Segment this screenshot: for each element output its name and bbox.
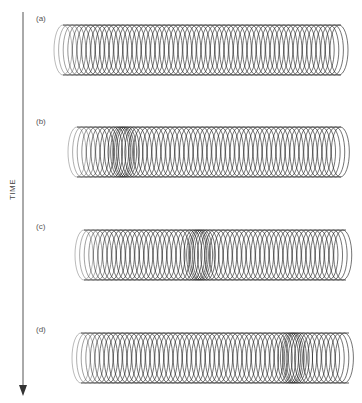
spring-d — [72, 333, 353, 383]
spring-a — [54, 25, 348, 75]
spring-diagrams — [0, 0, 362, 403]
spring-b — [68, 127, 349, 177]
spring-c — [75, 230, 352, 280]
